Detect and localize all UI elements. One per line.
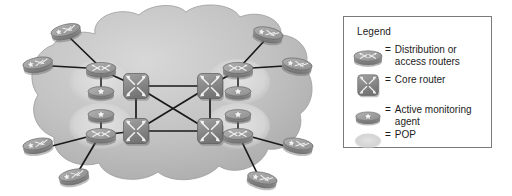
distribution-router-node [223,62,253,79]
core-router-node [124,74,150,101]
legend-item-monitoring-agent: = Active monitoring agent [353,104,487,128]
legend-title: Legend [357,26,391,37]
legend-label-monitoring-agent: Active monitoring agent [395,104,487,127]
legend-item-core-router: = Core router [353,74,445,98]
legend-label-pop: POP [395,129,416,141]
access-router-node [282,136,315,158]
access-router-node [22,136,55,158]
legend-item-pop: = POP [353,129,416,153]
distribution-router-icon [353,44,383,68]
access-router-node [245,169,278,192]
legend-equals-sign: = [385,129,391,140]
core-router-node [198,119,224,146]
legend-label-core-router: Core router [395,74,446,86]
legend-item-distribution-router: = Distribution or access routers [353,44,487,68]
core-router-node [124,119,150,146]
distribution-router-node [86,128,116,145]
legend-equals-sign: = [385,44,391,55]
monitoring-agent-node [225,87,251,102]
network-diagram-figure: Legend = Distribution or access routers … [0,0,512,196]
monitoring-agent-icon [353,104,383,128]
monitoring-agent-node [88,110,114,125]
core-router-icon [353,74,383,98]
access-router-node [58,166,91,189]
legend-equals-sign: = [385,74,391,85]
legend-label-distribution-router: Distribution or access routers [395,44,487,67]
monitoring-agent-node [88,87,114,102]
legend-equals-sign: = [385,104,391,115]
pop-ellipse-icon [353,129,383,153]
distribution-router-node [223,128,253,145]
distribution-router-node [86,62,116,79]
core-router-node [198,74,224,101]
monitoring-agent-node [225,110,251,125]
